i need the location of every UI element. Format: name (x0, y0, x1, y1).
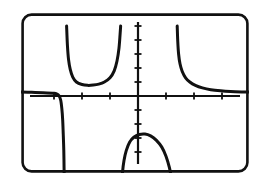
graph-canvas (21, 13, 249, 173)
calculator-screen-frame (21, 13, 249, 173)
screenshot-root (0, 0, 265, 182)
